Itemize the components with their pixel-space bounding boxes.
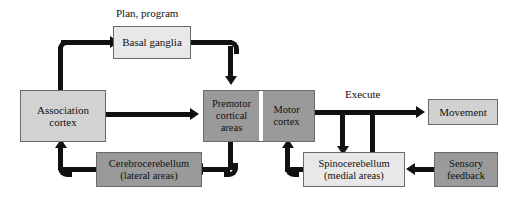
node-premotor-label-line2: cortical: [216, 110, 247, 121]
node-motor-cortex-label-line1: Motor: [273, 104, 299, 115]
node-sensory-feedback-label-line2: feedback: [447, 170, 485, 181]
connector-cerebro-to-assoc-corner: [58, 163, 72, 177]
node-premotor-cortical-areas[interactable]: Premotor cortical areas: [203, 90, 259, 142]
node-motor-cortex-label-line2: cortex: [273, 116, 299, 127]
premotor-motor-divider: [259, 91, 263, 141]
label-execute: Execute: [345, 88, 380, 100]
node-movement[interactable]: Movement: [428, 99, 498, 125]
node-premotor-label-line1: Premotor: [212, 98, 251, 109]
arrowhead-sensory-to-spino: [406, 163, 415, 175]
connector-sensory-to-spino: [413, 167, 435, 172]
node-sensory-feedback-label-line1: Sensory: [449, 158, 483, 169]
node-spinocerebellum[interactable]: Spinocerebellum (medial areas): [303, 152, 405, 187]
node-basal-ganglia-label: Basal ganglia: [120, 36, 184, 48]
connector-basal-to-premotor-corner: [225, 40, 239, 54]
node-movement-label: Movement: [437, 106, 489, 118]
diagram-canvas: Plan, program Execute Basal ganglia: [0, 0, 517, 207]
connector-spino-riser-to-trunk: [370, 112, 375, 157]
connector-assoc-to-basal-corner: [58, 40, 72, 54]
node-cerebrocerebellum[interactable]: Cerebrocerebellum (lateral areas): [96, 152, 202, 187]
node-premotor-label-line3: areas: [221, 122, 243, 133]
label-plan-program: Plan, program: [116, 7, 178, 19]
node-cerebrocerebellum-label-line2: (lateral areas): [120, 170, 177, 181]
node-cerebrocerebellum-label-line1: Cerebrocerebellum: [109, 158, 189, 169]
connector-assoc-to-premotor: [105, 112, 191, 117]
arrowhead-assoc-to-premotor: [190, 108, 199, 120]
arrowhead-basal-to-premotor: [225, 76, 237, 85]
connector-motor-to-spino-vertical: [340, 112, 345, 149]
connector-premotor-to-cerebro-corner: [224, 163, 238, 177]
node-basal-ganglia[interactable]: Basal ganglia: [113, 26, 191, 59]
node-spinocerebellum-label-line1: Spinocerebellum: [318, 158, 389, 169]
connector-motor-to-movement: [314, 110, 418, 115]
connector-spino-to-motor-corner: [285, 163, 299, 177]
node-association-cortex[interactable]: Association cortex: [20, 90, 106, 142]
node-motor-cortex[interactable]: Motor cortex: [259, 90, 315, 142]
node-spinocerebellum-label-line2: (medial areas): [324, 170, 384, 181]
node-sensory-feedback[interactable]: Sensory feedback: [434, 152, 498, 187]
arrowhead-motor-to-movement: [416, 106, 425, 118]
node-association-cortex-label-line1: Association: [37, 104, 89, 116]
node-association-cortex-label-line2: cortex: [49, 116, 76, 128]
